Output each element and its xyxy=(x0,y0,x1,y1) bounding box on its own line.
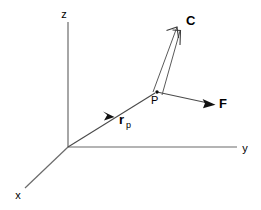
x-axis-label: x xyxy=(15,189,21,201)
z-axis-label: z xyxy=(61,8,67,20)
vector-diagram: z y x r p F C P xyxy=(0,0,261,210)
point-P-label: P xyxy=(151,94,158,106)
couple-vector-C xyxy=(153,27,181,95)
rp-label-main: r xyxy=(119,112,124,127)
C-shaft-left xyxy=(153,27,177,92)
C-arrowhead-left xyxy=(167,27,179,38)
F-arrowhead xyxy=(203,99,216,108)
y-axis-label: y xyxy=(242,142,248,154)
figure-container: z y x r p F C P xyxy=(0,0,261,210)
position-vector-rp xyxy=(68,93,155,147)
F-shaft xyxy=(157,92,208,103)
rp-shaft xyxy=(68,93,155,147)
force-vector-F xyxy=(157,92,216,108)
x-axis-line xyxy=(25,147,68,188)
C-shaft-right xyxy=(162,31,180,95)
F-label: F xyxy=(219,96,227,111)
rp-label-subscript: p xyxy=(126,120,131,130)
C-label: C xyxy=(186,13,196,28)
